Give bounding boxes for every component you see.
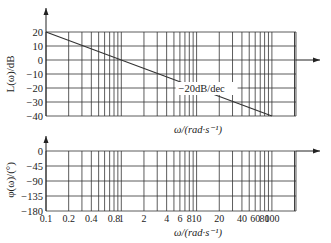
x-tick-label: 4 [164,213,169,224]
y-tick-label: 0 [38,55,43,66]
y-tick-label: −10 [27,69,43,80]
x-tick-label: 10 [192,213,202,224]
x-tick-label: 6 [177,213,182,224]
y-tick-label: −30 [27,97,43,108]
x-axis-label: ω/(rad·s⁻¹) [174,227,222,239]
x-tick-label: 0.1 [40,213,53,224]
x-tick-label: 100 [264,213,279,224]
x-tick-label: 0.2 [62,213,75,224]
bode-plot: 20100−10−20−30−40L(ω)/dB−20dB/decω/(rad·… [0,0,331,243]
phase-plot: 0−45−90−135−180φ(ω)/(°)0.10.20.40.812468… [4,136,320,239]
y-tick-label: −40 [27,111,43,122]
x-tick-label: 40 [237,213,247,224]
x-axis-arrow-icon [313,149,320,154]
magnitude-plot: 20100−10−20−30−40L(ω)/dB−20dB/decω/(rad·… [4,8,320,136]
x-tick-label: 1 [119,213,124,224]
y-tick-label: 0 [38,146,43,157]
y-axis-label: φ(ω)/(°) [4,162,17,198]
y-tick-label: 10 [33,41,44,52]
slope-annotation: −20dB/dec [179,83,226,94]
y-tick-label: −90 [27,176,43,187]
y-tick-label: −20 [27,83,43,94]
x-tick-label: 20 [214,213,224,224]
x-tick-label: 0.4 [85,213,98,224]
x-tick-label: 2 [141,213,146,224]
y-axis-arrow-icon [44,8,49,15]
x-axis-label: ω/(rad·s⁻¹) [174,124,222,136]
y-axis-arrow-icon [44,136,49,143]
x-axis-arrow-icon [313,58,320,63]
y-tick-label: −45 [27,161,43,172]
y-tick-label: −135 [21,191,43,202]
y-tick-label: 20 [33,27,44,38]
y-axis-label: L(ω)/dB [4,55,17,92]
